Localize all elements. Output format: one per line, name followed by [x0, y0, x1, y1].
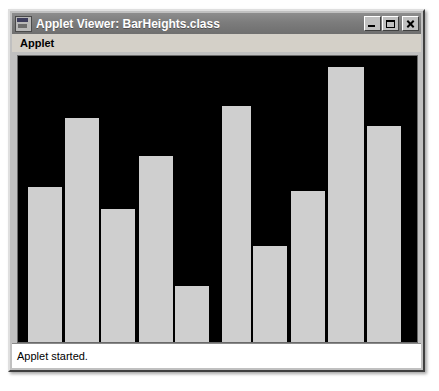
chart-bar — [291, 191, 325, 342]
chart-bar — [139, 156, 173, 342]
chart-bar — [222, 106, 251, 342]
desktop-background: Applet Viewer: BarHeights.class Applet A… — [0, 0, 439, 391]
chart-bar — [367, 126, 401, 342]
chart-bar — [65, 118, 99, 342]
bar-chart — [18, 56, 417, 342]
chart-bar — [101, 209, 135, 342]
status-bar: Applet started. — [12, 343, 421, 368]
applet-viewer-window: Applet Viewer: BarHeights.class Applet A… — [8, 9, 425, 372]
maximize-button[interactable] — [382, 16, 399, 31]
minimize-button[interactable] — [364, 16, 381, 31]
close-button[interactable] — [402, 16, 419, 31]
chart-bar — [175, 286, 209, 342]
chart-bar — [28, 187, 62, 342]
applet-viewer-icon — [15, 16, 32, 32]
window-titlebar[interactable]: Applet Viewer: BarHeights.class — [12, 13, 421, 34]
status-text: Applet started. — [17, 350, 88, 362]
chart-bar — [253, 246, 287, 342]
chart-bar — [328, 67, 364, 342]
window-title: Applet Viewer: BarHeights.class — [36, 17, 361, 31]
applet-canvas — [17, 55, 418, 343]
menu-applet[interactable]: Applet — [16, 36, 58, 50]
menu-bar: Applet — [12, 34, 421, 52]
